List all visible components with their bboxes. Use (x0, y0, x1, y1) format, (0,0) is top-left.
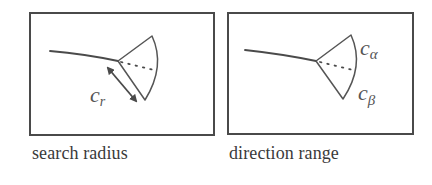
beta-symbol: c (358, 80, 368, 105)
alpha-label: cα (360, 35, 379, 62)
beta-label: cβ (358, 80, 376, 108)
direction-range-diagram: cα cβ (0, 0, 432, 185)
direction-range-caption: direction range (229, 143, 339, 164)
panel-direction-range: cα cβ direction range (0, 0, 432, 185)
beta-subscript: β (367, 92, 376, 108)
alpha-subscript: α (370, 46, 379, 62)
trajectory-line (245, 50, 316, 61)
alpha-symbol: c (360, 35, 370, 60)
direction-sector (316, 35, 356, 99)
direction-dotted-line (320, 62, 353, 70)
